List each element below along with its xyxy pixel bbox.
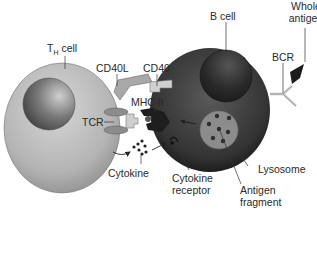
b-cell-nucleus bbox=[200, 50, 252, 102]
cytokine-label: Cytokine bbox=[108, 167, 149, 179]
th-cell-label: TH cell bbox=[47, 42, 77, 59]
whole-antigen-shape bbox=[290, 64, 304, 84]
cytokine-dots bbox=[132, 139, 147, 155]
th-cell-nucleus bbox=[23, 78, 75, 130]
whole-antigen-label: Whole antigen bbox=[288, 0, 317, 24]
antigen-fragment-label: Antigen fragment bbox=[240, 184, 281, 208]
th-cell bbox=[4, 63, 120, 193]
lysosome-label: Lysosome bbox=[258, 163, 305, 175]
mhc-ii-label: MHC II bbox=[131, 96, 164, 108]
tcr-label: TCR bbox=[82, 116, 104, 128]
bcr-label: BCR bbox=[272, 51, 294, 63]
diagram-canvas bbox=[0, 0, 317, 264]
cd40l-label: CD40L bbox=[96, 62, 129, 74]
b-cell-label: B cell bbox=[210, 10, 236, 22]
peptide bbox=[145, 116, 151, 122]
cytokine-receptor-label: Cytokine receptor bbox=[172, 172, 213, 196]
immune-cell-diagram: TH cell B cell Whole antigen BCR CD40L C… bbox=[0, 0, 317, 264]
cd40-label: CD40 bbox=[143, 62, 170, 74]
